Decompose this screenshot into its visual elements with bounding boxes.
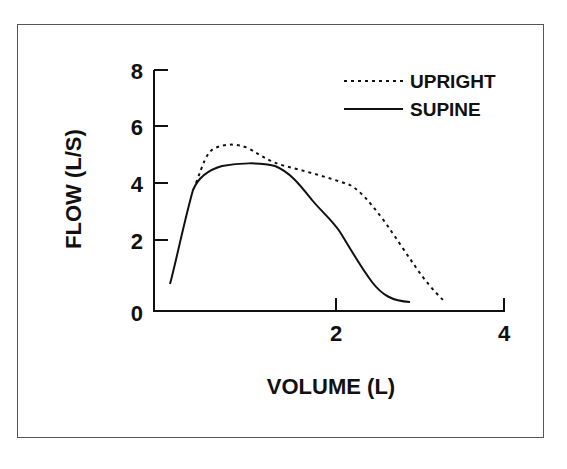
y-axis-title: FLOW (L/S) xyxy=(61,129,86,249)
series-supine-line xyxy=(170,163,410,302)
x-tick-label-4: 4 xyxy=(498,321,511,346)
legend: UPRIGHT SUPINE xyxy=(344,71,496,120)
y-tick-label-6: 6 xyxy=(131,115,143,140)
series-upright-line xyxy=(196,145,443,300)
legend-supine-label: SUPINE xyxy=(410,99,481,120)
y-tick-label-4: 4 xyxy=(131,172,144,197)
y-tick-label-2: 2 xyxy=(131,229,143,254)
legend-upright-label: UPRIGHT xyxy=(410,71,496,92)
x-axis-title: VOLUME (L) xyxy=(267,374,395,399)
x-tick-label-2: 2 xyxy=(330,321,342,346)
y-tick-label-0: 0 xyxy=(131,301,143,326)
x-axis xyxy=(153,298,505,311)
y-axis xyxy=(154,70,168,311)
y-tick-label-8: 8 xyxy=(131,59,143,84)
flow-volume-chart: 8 6 4 2 0 2 4 VOLUME (L) FLOW (L/S) UPRI… xyxy=(0,0,567,469)
